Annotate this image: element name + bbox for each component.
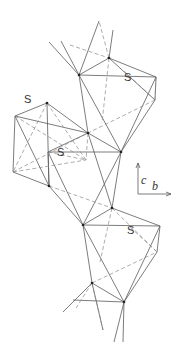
vertex-node xyxy=(82,224,85,227)
vertex-node xyxy=(111,207,114,210)
dashed-edge xyxy=(76,283,92,308)
solid-edge xyxy=(79,75,156,77)
axis-c-label: c xyxy=(141,174,146,186)
solid-edge xyxy=(123,302,124,342)
dashed-edge xyxy=(100,208,112,262)
polyhedron-vertices xyxy=(46,57,126,304)
solid-edge xyxy=(114,302,124,342)
vertex-node xyxy=(46,102,49,105)
vertex-node xyxy=(87,132,90,135)
solid-edge xyxy=(88,133,112,208)
dashed-edge xyxy=(102,58,109,123)
dashed-edge xyxy=(99,21,109,58)
vertex-node xyxy=(123,301,126,304)
dashed-edges xyxy=(13,21,157,330)
solid-edge xyxy=(79,21,99,75)
solid-edge xyxy=(79,58,109,75)
solid-edge xyxy=(121,100,155,152)
dashed-edge xyxy=(13,160,86,172)
sulfur-label-4: S xyxy=(127,225,134,236)
dashed-edge xyxy=(13,133,88,172)
vertex-node xyxy=(120,151,123,154)
dashed-edge xyxy=(88,100,155,133)
solid-edge xyxy=(109,58,156,77)
sulfur-label-2: S xyxy=(24,94,31,105)
vertex-node xyxy=(78,74,81,77)
solid-edge xyxy=(48,133,88,152)
solid-edge xyxy=(112,208,160,226)
dashed-edge xyxy=(48,152,86,160)
vertex-node xyxy=(108,57,111,60)
solid-edge xyxy=(13,116,15,172)
solid-edge xyxy=(48,152,83,225)
dashed-edge xyxy=(92,252,157,283)
vertex-node xyxy=(91,282,94,285)
solid-edge xyxy=(48,152,49,186)
solid-edge xyxy=(63,283,92,312)
sulfur-label-3: S xyxy=(57,147,64,158)
sulfur-label-1: S xyxy=(124,72,131,83)
crystal-structure-diagram xyxy=(0,0,183,347)
dashed-edge xyxy=(86,133,88,160)
vertex-node xyxy=(48,185,51,188)
dashed-edge xyxy=(112,208,157,252)
dashed-edge xyxy=(13,103,47,172)
solid-edge xyxy=(121,77,156,152)
axis-b-label: b xyxy=(152,180,158,192)
solid-edge xyxy=(49,186,83,225)
solid-edge xyxy=(83,225,160,226)
solid-edge xyxy=(109,30,113,58)
